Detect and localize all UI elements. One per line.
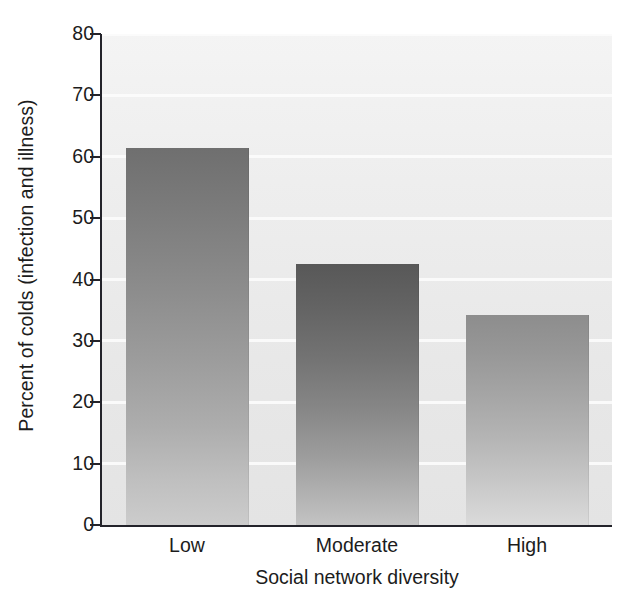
x-axis-line xyxy=(100,525,612,527)
y-axis-tick-mark xyxy=(90,401,101,403)
y-axis-tick-label: 40 xyxy=(52,270,94,290)
y-axis-tick-mark xyxy=(90,33,101,35)
x-axis-title: Social network diversity xyxy=(102,566,612,589)
bar-moderate xyxy=(296,264,419,525)
y-axis-tick-label: 50 xyxy=(52,208,94,228)
y-axis-tick-mark xyxy=(90,156,101,158)
plot-area xyxy=(102,34,612,525)
x-axis-tick-label: Moderate xyxy=(316,536,398,556)
gridline xyxy=(102,94,612,97)
y-axis-tick-mark xyxy=(90,340,101,342)
x-axis-tick-label: Low xyxy=(169,536,205,556)
y-axis-tick-mark xyxy=(90,524,101,526)
y-axis-tick-mark xyxy=(90,94,101,96)
bar-high xyxy=(466,315,589,525)
x-axis-tick-labels: LowModerateHigh xyxy=(102,536,612,566)
y-axis-tick-mark xyxy=(90,279,101,281)
y-axis-tick-label: 30 xyxy=(52,331,94,351)
y-axis-title: Percent of colds (infection and illness) xyxy=(0,0,52,530)
y-axis-tick-label: 20 xyxy=(52,393,94,413)
gridline xyxy=(102,34,612,36)
y-axis-tick-mark xyxy=(90,217,101,219)
y-axis-tick-label: 80 xyxy=(52,24,94,44)
y-axis-tick-label: 0 xyxy=(52,515,94,535)
y-axis-tick-label: 70 xyxy=(52,86,94,106)
bar-chart-figure: Percent of colds (infection and illness)… xyxy=(0,0,634,603)
bar-low xyxy=(126,148,249,525)
x-axis-tick-label: High xyxy=(507,536,547,556)
y-axis-tick-label: 10 xyxy=(52,454,94,474)
y-axis-tick-label: 60 xyxy=(52,147,94,167)
y-axis-title-text: Percent of colds (infection and illness) xyxy=(15,99,38,431)
y-axis-tick-mark xyxy=(90,463,101,465)
y-axis-tick-labels: 01020304050607080 xyxy=(52,0,94,603)
